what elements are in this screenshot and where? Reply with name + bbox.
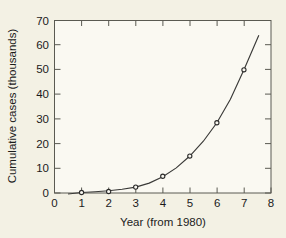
x-tick-label: 0 <box>51 197 57 209</box>
x-tick-label: 5 <box>187 197 193 209</box>
y-tick-label: 70 <box>36 15 49 27</box>
y-tick-label: 30 <box>36 113 49 125</box>
data-point-marker <box>215 121 219 125</box>
x-axis-title: Year (from 1980) <box>120 216 206 228</box>
plot-area-background <box>54 20 271 193</box>
y-tick-label: 10 <box>36 162 49 174</box>
y-tick-label: 60 <box>36 39 49 51</box>
y-tick-label: 50 <box>36 63 49 75</box>
x-tick-label: 3 <box>133 197 139 209</box>
x-tick-label: 7 <box>241 197 247 209</box>
x-tick-label: 8 <box>268 197 274 209</box>
x-tick-label: 4 <box>160 197 167 209</box>
data-point-marker <box>242 68 246 72</box>
x-tick-labels: 0 1 2 3 4 5 6 7 8 <box>51 197 274 209</box>
data-point-marker <box>188 154 192 158</box>
data-point-marker <box>134 185 138 189</box>
x-tick-label: 6 <box>214 197 220 209</box>
y-axis-title: Cumulative cases (thousands) <box>6 28 18 183</box>
data-point-marker <box>79 190 83 194</box>
data-point-marker <box>161 174 165 178</box>
chart-figure: 0 10 20 30 40 50 60 70 0 1 2 3 4 5 6 7 8… <box>0 0 286 238</box>
y-tick-label: 20 <box>36 138 49 150</box>
x-tick-label: 2 <box>105 197 111 209</box>
cumulative-cases-chart: 0 10 20 30 40 50 60 70 0 1 2 3 4 5 6 7 8… <box>0 0 286 238</box>
data-point-marker <box>107 189 111 193</box>
y-tick-label: 40 <box>36 88 49 100</box>
x-tick-label: 1 <box>78 197 84 209</box>
y-tick-label: 0 <box>43 187 49 199</box>
